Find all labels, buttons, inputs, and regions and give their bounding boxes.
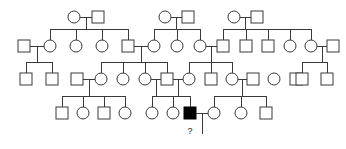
- unaffected-female-symbol[interactable]: [226, 73, 238, 85]
- unaffected-male-symbol[interactable]: [122, 40, 134, 52]
- unaffected-male-symbol[interactable]: [262, 40, 274, 52]
- unaffected-female-symbol[interactable]: [44, 40, 56, 52]
- unaffected-female-symbol[interactable]: [171, 40, 183, 52]
- unaffected-male-symbol[interactable]: [240, 40, 252, 52]
- unaffected-male-symbol[interactable]: [247, 73, 259, 85]
- unaffected-female-symbol[interactable]: [284, 40, 296, 52]
- unaffected-male-symbol[interactable]: [98, 107, 110, 119]
- unaffected-female-symbol[interactable]: [235, 107, 247, 119]
- unaffected-male-symbol[interactable]: [327, 40, 339, 52]
- unaffected-male-symbol[interactable]: [92, 11, 104, 23]
- unaffected-male-symbol[interactable]: [182, 11, 194, 23]
- unaffected-male-symbol[interactable]: [161, 73, 173, 85]
- unaffected-female-symbol[interactable]: [148, 40, 160, 52]
- unaffected-male-symbol[interactable]: [321, 73, 333, 85]
- unknown-status-marker: ?: [187, 126, 192, 136]
- annotation-labels-layer: ?: [187, 126, 192, 136]
- unaffected-male-symbol[interactable]: [46, 73, 58, 85]
- affected-male-symbol[interactable]: [184, 107, 196, 119]
- unaffected-female-symbol[interactable]: [167, 107, 179, 119]
- unaffected-female-symbol[interactable]: [228, 11, 240, 23]
- unaffected-female-symbol[interactable]: [268, 73, 280, 85]
- unaffected-male-symbol[interactable]: [251, 11, 263, 23]
- unaffected-female-symbol[interactable]: [159, 11, 171, 23]
- unaffected-female-symbol[interactable]: [208, 107, 220, 119]
- unaffected-male-symbol[interactable]: [18, 40, 30, 52]
- unaffected-female-symbol[interactable]: [183, 73, 195, 85]
- unaffected-male-symbol[interactable]: [71, 73, 83, 85]
- unaffected-female-symbol[interactable]: [117, 73, 129, 85]
- unaffected-male-symbol[interactable]: [20, 73, 32, 85]
- pedigree-chart: ?: [0, 0, 346, 149]
- unaffected-male-symbol[interactable]: [56, 107, 68, 119]
- unaffected-female-symbol[interactable]: [96, 40, 108, 52]
- unaffected-female-symbol[interactable]: [77, 107, 89, 119]
- unaffected-male-symbol[interactable]: [296, 73, 308, 85]
- unaffected-female-symbol[interactable]: [139, 73, 151, 85]
- unaffected-male-symbol[interactable]: [260, 107, 272, 119]
- unaffected-female-symbol[interactable]: [70, 40, 82, 52]
- unaffected-male-symbol[interactable]: [217, 40, 229, 52]
- pedigree-canvas: ?: [0, 0, 346, 149]
- unaffected-female-symbol[interactable]: [68, 11, 80, 23]
- unaffected-female-symbol[interactable]: [119, 107, 131, 119]
- unaffected-male-symbol[interactable]: [205, 73, 217, 85]
- unaffected-female-symbol[interactable]: [146, 107, 158, 119]
- unaffected-female-symbol[interactable]: [194, 40, 206, 52]
- unaffected-female-symbol[interactable]: [305, 40, 317, 52]
- unaffected-female-symbol[interactable]: [95, 73, 107, 85]
